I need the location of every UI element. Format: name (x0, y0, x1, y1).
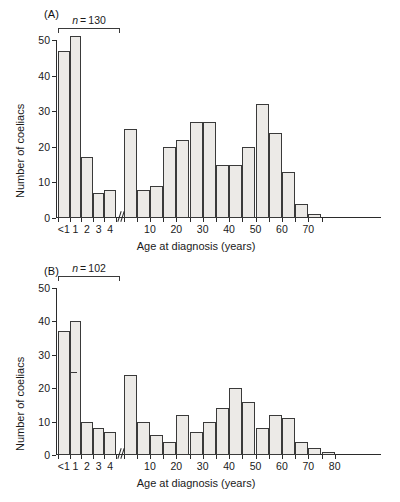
histogram-bar (150, 435, 163, 455)
x-tick (190, 218, 191, 222)
y-tick-label: 20 (38, 383, 50, 394)
y-tick-label: 20 (38, 142, 50, 153)
x-tick (229, 218, 230, 222)
histogram-bar (58, 51, 70, 218)
histogram-bar (150, 186, 163, 218)
x-tick (242, 218, 243, 222)
x-tick (93, 455, 94, 459)
x-tick (137, 455, 138, 459)
x-tick-label: 4 (107, 461, 113, 472)
x-tick (203, 455, 204, 459)
x-tick-label: 70 (302, 461, 314, 472)
x-tick (58, 455, 59, 459)
histogram-bar (104, 190, 116, 218)
x-tick (295, 455, 296, 459)
x-tick-label: 4 (107, 224, 113, 235)
y-tick-label: 10 (38, 177, 50, 188)
panel-a-plot-area: 01020304050<1123410203040506070n = 130 (56, 40, 381, 218)
panel-b-label: (B) (44, 265, 59, 277)
y-tick (52, 455, 56, 456)
x-tick-label: 10 (144, 224, 156, 235)
x-tick (203, 218, 204, 222)
panel-a-y-axis (56, 40, 57, 218)
panel-a: (A) Number of coeliacs 01020304050<11234… (0, 0, 400, 251)
panel-a-x-axis-title: Age at diagnosis (years) (137, 240, 256, 252)
x-tick (93, 218, 94, 222)
y-tick (52, 218, 56, 219)
y-tick (52, 76, 56, 77)
x-tick-label: 1 (72, 461, 78, 472)
x-tick (190, 455, 191, 459)
y-tick-label: 40 (38, 316, 50, 327)
histogram-bar (295, 442, 308, 455)
y-tick-label: 10 (38, 416, 50, 427)
x-tick (176, 455, 177, 459)
histogram-bar (308, 448, 321, 455)
x-tick (70, 455, 71, 459)
histogram-bar (124, 375, 137, 455)
histogram-bar (256, 104, 269, 218)
x-tick (137, 218, 138, 222)
histogram-bar (137, 190, 150, 218)
histogram-bar (242, 147, 255, 218)
x-tick-label: 2 (84, 224, 90, 235)
x-tick-label: 10 (144, 461, 156, 472)
axis-break-icon (117, 211, 127, 222)
histogram-bar (81, 422, 93, 455)
panel-b-y-axis (56, 288, 57, 455)
x-tick-label: 60 (276, 461, 288, 472)
y-tick-label: 40 (38, 70, 50, 81)
y-tick-label: 50 (38, 283, 50, 294)
panel-a-y-axis-title: Number of coeliacs (14, 104, 26, 198)
histogram-bar (190, 122, 203, 218)
x-tick (269, 455, 270, 459)
histogram-bar (269, 415, 282, 455)
y-tick (52, 147, 56, 148)
panel-b-plot-area: 01020304050<112341020304050607080n = 102 (56, 288, 381, 455)
histogram-bar (269, 133, 282, 218)
x-tick-label: 1 (72, 224, 78, 235)
histogram-bar (137, 422, 150, 455)
histogram-bar (93, 428, 105, 455)
histogram-bar (203, 122, 216, 218)
y-tick-label: 0 (44, 450, 50, 461)
x-tick-label: 60 (276, 224, 288, 235)
x-tick (104, 218, 105, 222)
histogram-bar (124, 129, 137, 218)
histogram-bar (282, 418, 295, 455)
x-tick-label: 2 (84, 461, 90, 472)
histogram-bar (190, 432, 203, 455)
panel-b-x-axis-title: Age at diagnosis (years) (137, 477, 256, 489)
x-tick-label: 50 (250, 461, 262, 472)
sample-size-label: n = 102 (72, 262, 106, 274)
x-tick-label: 20 (170, 461, 182, 472)
x-tick (176, 218, 177, 222)
x-tick (308, 455, 309, 459)
x-tick (150, 455, 151, 459)
x-tick (229, 455, 230, 459)
x-tick (322, 455, 323, 459)
histogram-bar (81, 157, 93, 218)
histogram-bar (176, 415, 189, 455)
x-tick-label: 3 (96, 461, 102, 472)
x-tick (70, 218, 71, 222)
histogram-bar (70, 321, 82, 455)
panel-a-label: (A) (44, 8, 59, 20)
x-tick (104, 455, 105, 459)
y-tick (52, 182, 56, 183)
histogram-bar (203, 422, 216, 455)
histogram-bar (229, 388, 242, 455)
x-tick (163, 455, 164, 459)
x-tick (58, 218, 59, 222)
histogram-bar (104, 432, 116, 455)
x-tick-label: <1 (58, 461, 70, 472)
x-tick (335, 455, 336, 459)
y-tick (52, 40, 56, 41)
x-tick (282, 455, 283, 459)
x-tick (269, 218, 270, 222)
histogram-bar (322, 452, 335, 455)
histogram-bar (58, 331, 70, 455)
histogram-bar (163, 147, 176, 218)
x-tick-label: 50 (250, 224, 262, 235)
x-tick (256, 218, 257, 222)
